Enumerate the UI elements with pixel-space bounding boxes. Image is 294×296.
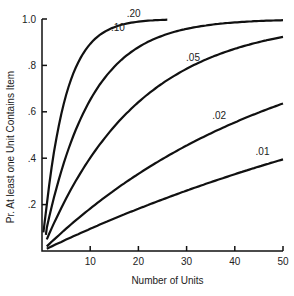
x-tick-label: 10 xyxy=(85,256,97,267)
x-tick-label: 50 xyxy=(277,256,289,267)
y-tick-label: 1.0 xyxy=(22,14,36,25)
curve-label: .20 xyxy=(127,8,141,19)
x-tick-label: 40 xyxy=(229,256,241,267)
curve-p10 xyxy=(46,20,283,235)
curve-label: .02 xyxy=(212,110,226,121)
curve-label: .01 xyxy=(256,146,270,157)
axes: 1.0.8.6.4.21020304050 xyxy=(22,14,289,268)
y-tick-label: .6 xyxy=(28,106,37,117)
curve-label: .10 xyxy=(111,22,125,33)
y-tick-label: .8 xyxy=(28,60,37,71)
axis-lines xyxy=(42,19,283,251)
curve-label: .05 xyxy=(186,52,200,63)
x-tick-label: 30 xyxy=(181,256,193,267)
curve-p05 xyxy=(47,37,283,240)
curve-p01 xyxy=(47,159,283,248)
y-tick-label: .2 xyxy=(28,199,37,210)
curves xyxy=(43,20,283,249)
x-axis-label: Number of Units xyxy=(131,275,203,286)
x-tick-label: 20 xyxy=(133,256,145,267)
y-tick-label: .4 xyxy=(28,153,37,164)
curve-p02 xyxy=(47,104,283,247)
chart: 1.0.8.6.4.21020304050 Number of UnitsPr.… xyxy=(0,0,294,296)
y-axis-label: Pr. At least one Unit Contains Item xyxy=(5,71,16,223)
curve-p20 xyxy=(43,20,167,233)
